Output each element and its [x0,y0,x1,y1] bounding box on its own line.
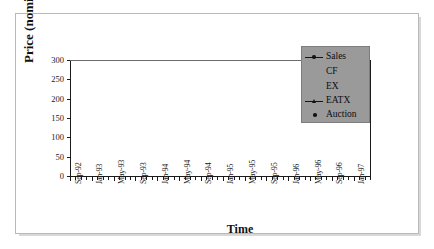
legend-item-ex[interactable]: EX [302,80,371,95]
x-tick-label: May-96 [314,160,323,184]
x-tick-mark [174,177,175,180]
y-tick-mark [67,99,70,100]
x-tick-mark [179,177,180,181]
x-tick-label: Sep-93 [139,163,148,184]
x-tick-mark [130,177,131,180]
x-tick-label: Jan-96 [292,164,301,184]
figure-shadow-right [419,17,421,236]
x-tick-mark [283,177,284,180]
legend-item-sales[interactable]: Sales [302,50,371,65]
figure-container: Price (nominal $/ton) 300250200150100500… [0,0,434,249]
x-tick-label: Jan-97 [357,164,366,184]
y-tick-label: 50 [38,153,64,161]
x-tick-mark [348,177,349,180]
legend-item-auction[interactable]: Auction [302,108,371,123]
x-tick-mark [108,177,109,180]
x-tick-mark [157,177,158,181]
legend-label-auction: Auction [326,109,357,119]
x-tick-mark [195,177,196,180]
x-tick-label: Jan-94 [161,164,170,184]
x-tick-mark [70,177,71,181]
x-tick-mark [239,177,240,180]
x-tick-mark [114,177,115,181]
x-tick-label: May-93 [117,160,126,184]
legend-marker-sales [305,56,323,59]
legend-label-eatx: EATX [326,95,350,105]
legend-label-sales: Sales [326,51,346,61]
legend-label-ex: EX [326,81,339,91]
x-tick-mark [354,177,355,181]
legend-item-eatx[interactable]: EATX [302,94,371,109]
y-tick-label: 200 [38,95,64,103]
x-tick-mark [86,177,87,180]
y-tick-mark [67,137,70,138]
y-tick-mark [67,60,70,61]
x-tick-label: May-94 [183,160,192,184]
x-tick-mark [201,177,202,181]
y-axis-title: Price (nominal $/ton) [21,0,37,63]
y-tick-mark [67,79,70,80]
cf-series-line [70,60,302,61]
x-tick-mark [223,177,224,181]
x-tick-mark [266,177,267,181]
y-tick-mark [67,157,70,158]
x-tick-mark [217,177,218,180]
x-tick-mark [245,177,246,181]
y-tick-label: 100 [38,133,64,141]
y-tick-label: 300 [38,56,64,64]
legend-label-cf: CF [326,66,338,76]
x-tick-mark [326,177,327,180]
y-tick-mark [67,118,70,119]
x-tick-mark [332,177,333,181]
legend-marker-auction [305,114,323,117]
x-tick-label: Sep-94 [204,163,213,184]
y-axis-line [70,60,71,177]
x-tick-mark [135,177,136,181]
x-tick-mark [305,177,306,180]
x-tick-mark [370,177,371,180]
x-tick-label: May-95 [248,160,257,184]
x-tick-label: Sep-96 [335,163,344,184]
legend-marker-eatx [305,100,323,103]
x-tick-mark [288,177,289,181]
y-tick-label: 250 [38,75,64,83]
x-tick-label: Jan-93 [95,164,104,184]
x-tick-label: Sep-92 [74,163,83,184]
legend-item-cf[interactable]: CF [302,65,371,80]
y-tick-label: 0 [38,172,64,180]
x-tick-mark [152,177,153,180]
x-tick-label: Sep-95 [270,163,279,184]
x-tick-mark [261,177,262,180]
x-tick-label: Jan-95 [226,164,235,184]
x-tick-mark [92,177,93,181]
x-tick-mark [310,177,311,181]
x-axis-title: Time [200,222,280,237]
chart-legend[interactable]: Sales CF EX EATX Auction [301,46,370,123]
y-tick-label: 150 [38,114,64,122]
